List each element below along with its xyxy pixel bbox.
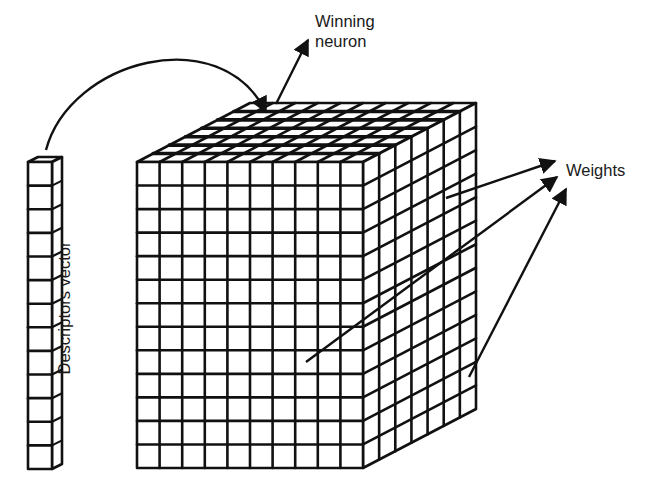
winning-neuron-label-line2: neuron bbox=[315, 31, 375, 51]
som-diagram: Winning neuron Weights Descriptors vecto… bbox=[0, 0, 660, 498]
descriptors-vector-label: Descriptors vector bbox=[54, 242, 74, 375]
winning-neuron-label-line1: Winning bbox=[315, 11, 375, 31]
neuron-grid-cube bbox=[137, 103, 476, 468]
winning-neuron-label: Winning neuron bbox=[315, 11, 375, 51]
weights-arrow-bottom bbox=[469, 189, 566, 377]
diagram-canvas bbox=[0, 0, 660, 498]
weights-label: Weights bbox=[566, 160, 625, 180]
winning-neuron-arrow bbox=[276, 40, 308, 104]
